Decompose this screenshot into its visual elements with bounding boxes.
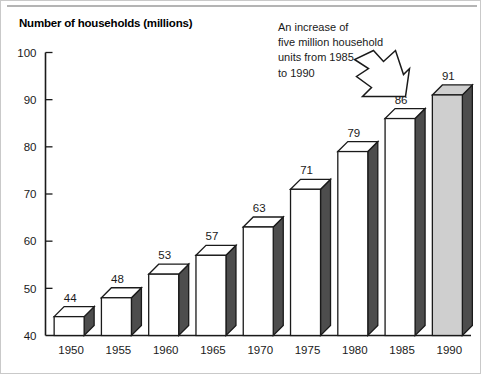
x-tick-label: 1970: [247, 344, 273, 356]
plot-area: 405060708090100 444853576371798691 19501…: [1, 1, 481, 374]
y-tick-label: 100: [17, 47, 36, 59]
bar-side-face: [321, 179, 331, 335]
bar-column: [338, 142, 378, 336]
bar-front-face: [432, 95, 462, 336]
bar-side-face: [368, 142, 378, 336]
x-tick-label: 1960: [153, 344, 179, 356]
bar-side-face: [273, 217, 283, 335]
bar-value-label: 79: [347, 127, 360, 139]
bar-side-face: [415, 109, 425, 336]
bar-column: [291, 179, 331, 335]
bar-front-face: [54, 317, 84, 336]
bar-front-face: [196, 255, 226, 335]
x-tick-label: 1990: [437, 344, 463, 356]
bar-front-face: [149, 274, 179, 335]
bar-side-face: [462, 85, 472, 336]
bar-value-label: 57: [206, 230, 219, 242]
x-tick-label: 1965: [200, 344, 226, 356]
bar-column: [196, 245, 236, 335]
y-tick-label: 40: [24, 330, 37, 342]
bar-side-face: [179, 264, 189, 335]
bar-front-face: [101, 298, 131, 336]
bar-value-label: 86: [395, 94, 408, 106]
x-tick-label: 1975: [295, 344, 321, 356]
y-tick-label: 70: [24, 188, 37, 200]
x-tick-labels: 195019551960196519701975198019851990: [58, 344, 462, 356]
bar-front-face: [291, 189, 321, 335]
x-tick-label: 1980: [342, 344, 368, 356]
y-tick-label: 60: [24, 235, 37, 247]
bar-front-face: [385, 119, 415, 336]
bar-column: [101, 288, 141, 336]
bar-side-face: [226, 245, 236, 335]
bar-column: [54, 307, 94, 336]
bar-value-label: 71: [300, 164, 313, 176]
bar-value-label: 48: [111, 273, 124, 285]
x-tick-label: 1950: [58, 344, 84, 356]
bar-column: [243, 217, 283, 335]
bar-value-label: 53: [158, 249, 171, 261]
y-tick-label: 50: [24, 283, 37, 295]
bar-front-face: [243, 227, 273, 335]
bar-column: [432, 85, 472, 336]
y-axis: 405060708090100: [17, 47, 52, 342]
chart-figure: Number of households (millions) An incre…: [0, 0, 481, 374]
x-tick-label: 1955: [106, 344, 132, 356]
bar-column: [385, 109, 425, 336]
bar-value-label: 91: [442, 70, 455, 82]
bar-value-label: 44: [64, 292, 77, 304]
y-tick-label: 90: [24, 94, 37, 106]
bar-column: [149, 264, 189, 335]
y-tick-label: 80: [24, 141, 37, 153]
bar-value-label: 63: [253, 202, 266, 214]
x-tick-label: 1985: [389, 344, 415, 356]
bar-front-face: [338, 152, 368, 336]
